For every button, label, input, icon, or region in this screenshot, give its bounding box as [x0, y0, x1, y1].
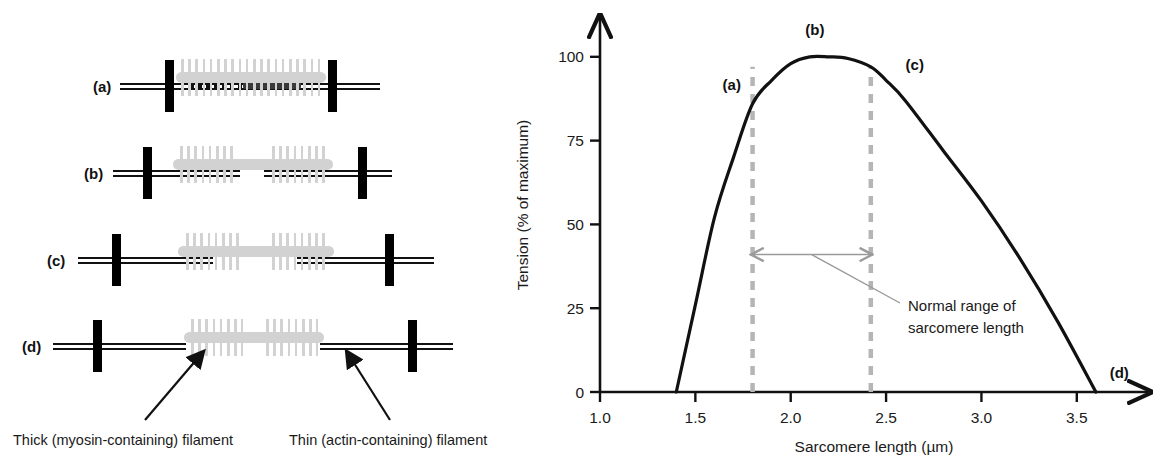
z-line-left	[143, 147, 152, 199]
x-tick-label: 2.0	[780, 409, 802, 426]
y-tick-label: 100	[558, 48, 584, 65]
sarcomere-row-b-label: (b)	[84, 165, 103, 182]
thin-filament-left	[53, 343, 186, 350]
reference-lines	[753, 67, 871, 392]
myosin-heads-lower	[181, 81, 321, 96]
x-axis-title: Sarcomere length (µm)	[795, 438, 954, 455]
y-axis-title: Tension (% of maximum)	[514, 120, 531, 291]
x-tick-label: 1.0	[589, 409, 611, 426]
myosin-heads-lower-right	[266, 341, 318, 356]
x-axis-ticks: 1.01.52.02.53.03.5	[589, 392, 1087, 426]
myosin-heads-lower-left	[180, 168, 235, 183]
sarcomere-row-d: (d)	[0, 308, 500, 398]
curve-label-c: (c)	[906, 56, 924, 73]
curve-label-d: (d)	[1110, 364, 1129, 381]
y-axis-ticks: 0255075100	[558, 48, 600, 400]
thin-filament-right	[320, 343, 453, 350]
x-tick-label: 1.5	[685, 409, 707, 426]
y-tick-label: 25	[567, 300, 584, 317]
sarcomere-row-c: (c)	[0, 222, 500, 312]
normal-range-text-line2: sarcomere length	[908, 319, 1024, 336]
normal-range-text-line1: Normal range of	[908, 297, 1016, 314]
z-line-right	[358, 147, 367, 199]
sarcomere-diagram-panel: (a) (b) (c)	[0, 0, 500, 476]
z-line-right	[385, 234, 394, 286]
y-tick-label: 0	[575, 384, 584, 401]
thin-filament-caption: Thin (actin-containing) filament	[289, 432, 487, 448]
length-tension-chart-panel: 0255075100 1.01.52.02.53.03.5 Normal ran…	[500, 0, 1165, 476]
z-line-right	[328, 60, 337, 112]
x-tick-label: 3.5	[1066, 409, 1088, 426]
myosin-heads-lower-left	[191, 341, 243, 356]
normal-range-leader	[812, 255, 900, 303]
sarcomere-row-a-label: (a)	[93, 78, 111, 95]
sarcomere-row-a: (a)	[0, 48, 500, 138]
myosin-heads-lower-right	[272, 255, 327, 270]
sarcomere-row-b: (b)	[0, 135, 500, 225]
curve-label-a: (a)	[723, 76, 741, 93]
y-tick-label: 50	[567, 216, 585, 233]
x-tick-label: 2.5	[875, 409, 897, 426]
tension-curve	[676, 56, 1096, 392]
z-line-left	[112, 234, 121, 286]
sarcomere-row-c-label: (c)	[47, 252, 65, 269]
z-line-right	[408, 320, 417, 372]
z-line-left	[93, 320, 102, 372]
myosin-heads-lower-left	[186, 255, 241, 270]
y-tick-label: 75	[567, 132, 584, 149]
x-tick-label: 3.0	[971, 409, 993, 426]
length-tension-chart: 0255075100 1.01.52.02.53.03.5 Normal ran…	[500, 0, 1165, 476]
sarcomere-row-d-label: (d)	[22, 338, 41, 355]
thick-filament-caption: Thick (myosin-containing) filament	[13, 432, 233, 448]
z-line-left	[165, 60, 174, 112]
myosin-heads-lower-right	[272, 168, 327, 183]
curve-label-b: (b)	[805, 21, 824, 38]
